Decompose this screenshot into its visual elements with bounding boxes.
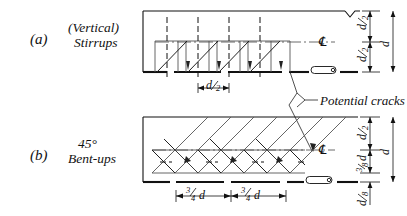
spacing-dim-arrow-b-1l [176, 194, 183, 199]
potential-crack-a-4 [250, 41, 280, 72]
spacing-dim-b2-den: 4 [246, 193, 251, 203]
depth-label-b-middle-num: 3 [354, 168, 364, 173]
potential-crack-a-1 [157, 41, 187, 72]
cover-dim-den-b: 8 [360, 191, 370, 196]
potential-cracks-bracket [297, 93, 305, 107]
depth-arrow-b-2 [368, 144, 373, 150]
crack-arrow-a-4 [279, 61, 283, 70]
crack-arrow-a-1 [186, 61, 190, 70]
depth-arrow-a-4 [368, 66, 373, 72]
spacing-dim-arrow-a-left [198, 86, 204, 91]
potential-crack-a-2 [188, 41, 218, 72]
panel-a-name-line1: (Vertical) [68, 20, 119, 35]
depth-label-a-upper: d 2 [355, 15, 370, 30]
spacing-dim-arrow-a-right [223, 86, 229, 91]
depth-label-a-upper-num: d [355, 23, 369, 30]
depth-outer-arrow-b-bot [391, 176, 396, 182]
potential-crack-b-10 [290, 150, 305, 165]
spacing-dim-b1-num: 3 [185, 185, 190, 195]
spacing-dim-label-b-2: 3 4 d [240, 185, 261, 203]
potential-crack-a-3 [219, 41, 249, 72]
panel-a: (a) (Vertical) Stirrups ℄ [30, 11, 395, 93]
depth-label-a-lower: d 2 [355, 47, 370, 62]
crack-arrow-b-2 [230, 156, 237, 163]
spacing-dim-arrow-b-2l [231, 194, 238, 199]
panel-b-name-line2: Bent-ups [68, 151, 116, 166]
depth-arrow-a-3 [368, 42, 373, 48]
crack-arrow-b-3 [276, 156, 283, 163]
cover-dim-arrow-b [368, 182, 373, 188]
rebar-anchor-dot-b [327, 178, 330, 181]
panel-b: (b) 45° Bent-ups ℄ [30, 117, 395, 206]
depth-outer-arrow-a-bot [391, 66, 396, 72]
panel-b-name-line1: 45° [78, 136, 98, 151]
spacing-dim-b1-suffix: d [199, 188, 206, 202]
spacing-dim-arrow-b-1r [224, 194, 231, 199]
centerline-symbol-a: ℄ [318, 34, 327, 49]
spacing-dim-b2-num: 3 [240, 185, 245, 195]
bentup-bar-b-1 [152, 117, 208, 173]
depth-label-b-upper-num: d [355, 133, 369, 140]
spacing-dim-arrow-b-2r [279, 194, 286, 199]
depth-label-b-middle-den: 8 [360, 162, 370, 167]
panel-b-tag: (b) [30, 147, 48, 164]
spacing-dim-b1-den: 4 [191, 193, 196, 203]
depth-label-a-total: d [378, 40, 392, 47]
bentup-bar-b-3 [198, 117, 254, 173]
depth-label-b-upper: d 2 [355, 125, 370, 140]
depth-outer-arrow-b-top [391, 117, 396, 123]
bentup-bar-b-5 [244, 117, 300, 173]
potential-cracks-annotation: Potential cracks [289, 72, 405, 152]
spacing-dim-b2-suffix: d [254, 188, 261, 202]
spacing-dim-label-b-1: 3 4 d [185, 185, 206, 203]
depth-arrow-b-1 [368, 117, 373, 123]
depth-label-b-upper-den: 2 [360, 125, 370, 130]
spacing-dim-label-a: d 2 [206, 78, 221, 93]
cover-dim-label-b: d 8 [355, 191, 370, 206]
bentup-bar-b-7 [290, 117, 346, 173]
depth-outer-arrow-a-top [391, 11, 396, 17]
depth-label-b-middle: 3 8 d [354, 154, 370, 173]
panel-a-tag: (a) [30, 31, 48, 48]
bentup-bar-b-2 [175, 117, 231, 173]
crack-arrow-a-3 [248, 61, 252, 70]
rebar-anchor-dot-a [331, 68, 334, 71]
depth-arrow-a-2 [368, 36, 373, 42]
depth-label-b-middle-suffix: d [355, 154, 369, 161]
panel-a-name-line2: Stirrups [74, 35, 118, 50]
crack-arrow-a-2 [217, 61, 221, 70]
depth-label-a-lower-num: d [355, 55, 369, 62]
figure-canvas: (a) (Vertical) Stirrups ℄ [0, 0, 407, 216]
crack-arrow-b-1 [184, 156, 191, 163]
spacing-dim-num-a: d [206, 78, 213, 92]
cover-dim-num-b: d [355, 199, 369, 206]
depth-label-b-total: d [378, 148, 392, 155]
bentup-bar-b-4 [221, 117, 277, 173]
engineering-figure: (a) (Vertical) Stirrups ℄ [0, 0, 407, 216]
potential-cracks-label: Potential cracks [319, 93, 405, 108]
beam-break-symbol-a [345, 11, 360, 17]
